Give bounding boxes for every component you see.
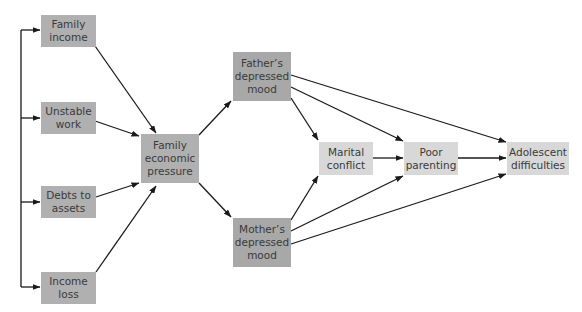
- node-label: Father’s depressed mood: [235, 57, 289, 96]
- node-label: Marital conflict: [327, 146, 365, 172]
- node-label: Mother’s depressed mood: [235, 223, 289, 262]
- node-fathers-depressed-mood: Father’s depressed mood: [233, 52, 291, 101]
- node-debts-to-assets: Debts to assets: [41, 186, 96, 218]
- edge-loss-pressure: [96, 186, 156, 272]
- edge-income-pressure: [95, 46, 156, 133]
- node-family-income: Family income: [41, 15, 96, 47]
- node-mothers-depressed-mood: Mother’s depressed mood: [233, 218, 291, 267]
- path-diagram: Family income Unstable work Debts to ass…: [0, 0, 582, 312]
- node-income-loss: Income loss: [41, 272, 96, 304]
- node-label: Adolescent difficulties: [509, 146, 567, 172]
- edge-pressure-father: [199, 101, 231, 135]
- edge-mother-adolescent: [291, 174, 506, 244]
- node-marital-conflict: Marital conflict: [319, 142, 373, 175]
- node-family-economic-pressure: Family economic pressure: [141, 134, 199, 183]
- edge-father-parenting: [291, 87, 403, 141]
- edge-father-adolescent: [291, 75, 506, 142]
- edge-mother-parenting: [291, 176, 403, 231]
- edge-father-marital: [291, 98, 318, 140]
- node-label: Unstable work: [45, 105, 91, 131]
- node-label: Poor parenting: [406, 146, 457, 172]
- node-label: Income loss: [49, 275, 88, 301]
- edge-mother-marital: [291, 176, 318, 220]
- node-label: Family economic pressure: [145, 139, 196, 178]
- node-label: Debts to assets: [46, 189, 91, 215]
- node-poor-parenting: Poor parenting: [404, 142, 458, 175]
- edge-pressure-mother: [199, 183, 231, 217]
- node-unstable-work: Unstable work: [41, 102, 96, 134]
- edge-work-pressure: [95, 121, 139, 136]
- edge-debts-pressure: [96, 183, 139, 197]
- node-adolescent-difficulties: Adolescent difficulties: [507, 142, 569, 175]
- node-label: Family income: [49, 18, 87, 44]
